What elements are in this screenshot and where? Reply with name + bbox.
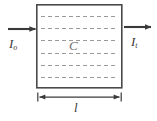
concentration-label: C bbox=[69, 39, 78, 52]
transmitted-intensity-subscript: t bbox=[135, 41, 137, 50]
incident-intensity-subscript: o bbox=[13, 43, 17, 52]
figure-canvas: Io It C l bbox=[0, 0, 157, 121]
sample-cell-box bbox=[37, 5, 122, 88]
path-length-label: l bbox=[74, 101, 78, 114]
path-length-dimension bbox=[38, 93, 121, 102]
transmitted-intensity-label: It bbox=[131, 35, 138, 50]
incident-intensity-label: Io bbox=[9, 37, 17, 52]
diagram-vector-layer bbox=[0, 0, 157, 121]
